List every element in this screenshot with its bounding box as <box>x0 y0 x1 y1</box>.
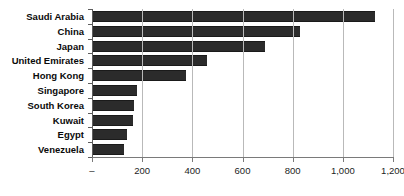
category-label: Hong Kong <box>33 70 84 81</box>
bar <box>92 144 124 155</box>
x-axis-label: 1,200 <box>381 165 404 176</box>
bar <box>92 100 134 111</box>
bar-fill <box>92 41 265 52</box>
bar <box>92 115 133 126</box>
bar <box>92 85 137 96</box>
category-label: Japan <box>57 41 84 52</box>
bar <box>92 11 375 22</box>
bar-fill <box>92 55 207 66</box>
bar-fill <box>92 26 300 37</box>
y-axis-tick <box>88 68 92 69</box>
bar-fill <box>92 85 137 96</box>
category-label: South Korea <box>28 100 84 111</box>
category-axis-labels: Saudi ArabiaChinaJapanUnited EmiratesHon… <box>0 9 89 157</box>
x-axis-tick <box>343 158 344 162</box>
bar <box>92 41 265 52</box>
y-axis-tick <box>88 53 92 54</box>
bar <box>92 55 207 66</box>
bar <box>92 70 186 81</box>
y-axis-line <box>92 9 93 157</box>
bar <box>92 129 127 140</box>
category-label: Kuwait <box>53 115 84 126</box>
bar-fill <box>92 100 134 111</box>
category-label: Venezuela <box>38 144 84 155</box>
gridline <box>393 9 394 157</box>
y-axis-tick <box>88 113 92 114</box>
x-axis-line <box>92 157 394 158</box>
bar-fill <box>92 129 127 140</box>
x-axis-label: 800 <box>285 165 301 176</box>
y-axis-tick <box>88 83 92 84</box>
y-axis-tick <box>88 9 92 10</box>
x-axis-label: 200 <box>134 165 150 176</box>
x-axis-tick <box>293 158 294 162</box>
x-axis-tick <box>192 158 193 162</box>
category-label: United Emirates <box>12 55 84 66</box>
x-axis-label: – <box>89 165 94 176</box>
bar-fill <box>92 70 186 81</box>
y-axis-tick <box>88 98 92 99</box>
category-label: Egypt <box>58 129 84 140</box>
y-axis-tick <box>88 142 92 143</box>
bar-fill <box>92 11 375 22</box>
bar <box>92 26 300 37</box>
x-axis-label: 400 <box>184 165 200 176</box>
y-axis-tick <box>88 24 92 25</box>
plot-area <box>92 9 393 157</box>
x-axis-label: 600 <box>235 165 251 176</box>
x-axis-tick <box>243 158 244 162</box>
x-axis-tick <box>393 158 394 162</box>
category-label: China <box>58 26 84 37</box>
y-axis-tick <box>88 127 92 128</box>
x-axis-tick <box>92 158 93 162</box>
y-axis-tick <box>88 39 92 40</box>
bar-series <box>92 9 393 157</box>
bar-fill <box>92 115 133 126</box>
category-label: Saudi Arabia <box>26 11 84 22</box>
x-axis-label: 1,000 <box>331 165 355 176</box>
category-label: Singapore <box>38 85 84 96</box>
bar-fill <box>92 144 124 155</box>
x-axis-tick <box>142 158 143 162</box>
bar-chart: Saudi ArabiaChinaJapanUnited EmiratesHon… <box>0 0 404 196</box>
